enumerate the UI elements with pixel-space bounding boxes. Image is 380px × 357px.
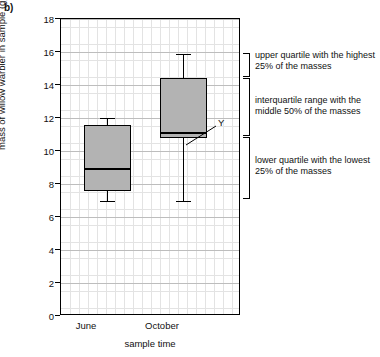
y-tick-label-8: 8 bbox=[28, 179, 54, 190]
plot-area bbox=[60, 18, 240, 315]
june-lower-cap bbox=[100, 201, 115, 202]
y-tick-label-6: 6 bbox=[28, 212, 54, 223]
june-median-line bbox=[84, 168, 131, 170]
y-tick-label-12: 12 bbox=[28, 113, 54, 124]
annotation-lower-quartile: lower quartile with the lowest 25% of th… bbox=[255, 155, 377, 177]
y-tick-label-14: 14 bbox=[28, 80, 54, 91]
y-tick-label-4: 4 bbox=[28, 245, 54, 256]
x-axis-title: sample time bbox=[60, 338, 240, 349]
y-tick-label-2: 2 bbox=[28, 278, 54, 289]
october-upper-cap bbox=[176, 54, 191, 55]
october-lower-whisker bbox=[183, 138, 184, 201]
june-upper-cap bbox=[100, 118, 115, 119]
june-upper-whisker bbox=[107, 118, 108, 125]
x-tick-label-june: June bbox=[46, 320, 126, 331]
annotation-upper-quartile: upper quartile with the highest 25% of t… bbox=[255, 50, 377, 72]
y-tick-label-18: 18 bbox=[28, 14, 54, 25]
june-box bbox=[84, 125, 131, 191]
y-pointer-label: Y bbox=[218, 117, 224, 128]
x-tick-label-october: October bbox=[122, 320, 202, 331]
bracket-interquartile-range bbox=[243, 78, 250, 136]
annotation-interquartile-range: interquartile range with the middle 50% … bbox=[255, 95, 377, 117]
y-tick-label-16: 16 bbox=[28, 47, 54, 58]
y-tick-label-10: 10 bbox=[28, 146, 54, 157]
bracket-upper-quartile bbox=[243, 53, 250, 77]
y-tick-mark bbox=[55, 315, 60, 316]
june-lower-whisker bbox=[107, 191, 108, 201]
october-median-line bbox=[160, 132, 207, 134]
october-box bbox=[160, 78, 207, 138]
october-lower-cap bbox=[176, 201, 191, 202]
october-upper-whisker bbox=[183, 54, 184, 78]
bracket-lower-quartile bbox=[243, 137, 250, 199]
y-axis-title: mass of willow warbler in sample (g) bbox=[0, 0, 7, 150]
